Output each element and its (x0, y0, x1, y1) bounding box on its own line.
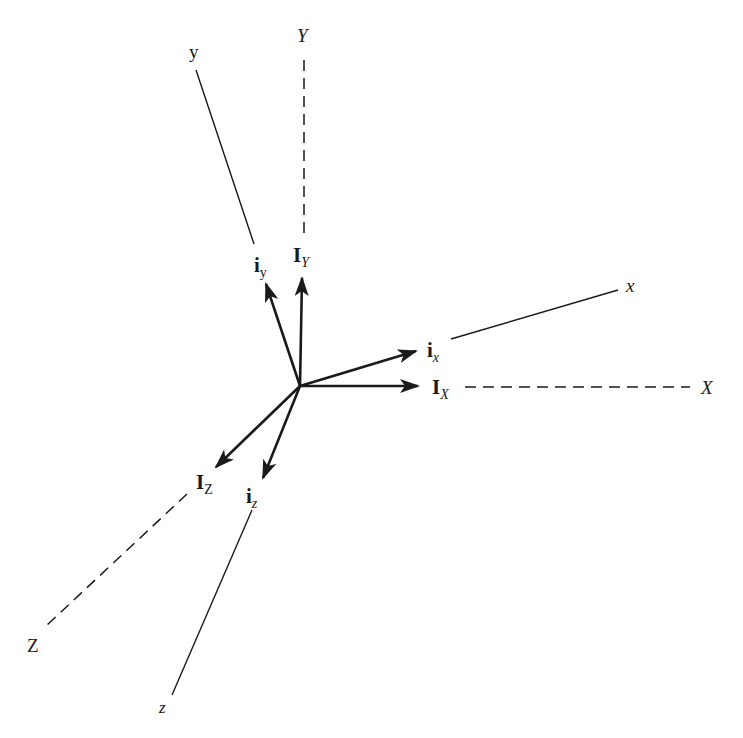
vector-I-Z-arrow (216, 386, 300, 467)
vector-label-I-Y: IY (293, 243, 311, 270)
vector-i-y-arrow (266, 284, 300, 386)
vector-I-Y-arrow (300, 278, 302, 386)
vector-label-i-y-sub: y (260, 265, 267, 280)
vector-label-I-Y-sub: Y (301, 255, 311, 270)
body-axis-x-line (451, 290, 618, 339)
axis-label-y: y (189, 41, 199, 62)
vector-label-i-x-sub: x (432, 350, 440, 365)
vector-label-I-Z: IZ (196, 470, 213, 497)
vector-i-z-arrow (263, 386, 300, 478)
axis-label-x: x (625, 275, 635, 296)
axis-label-Z: Z (27, 635, 39, 656)
vector-i-x-arrow (300, 351, 416, 386)
inertial-axis-Z-line (46, 494, 187, 626)
axis-label-Y: Y (297, 25, 310, 46)
vector-label-I-X-base: I (432, 375, 440, 399)
vector-label-i-y: iy (254, 253, 267, 280)
vector-label-I-Y-base: I (293, 243, 301, 267)
unit-vectors (216, 278, 418, 478)
vector-label-I-X-sub: X (439, 387, 449, 402)
vector-label-I-Z-sub: Z (204, 482, 213, 497)
vector-label-i-x: ix (427, 338, 440, 365)
axis-lines (46, 57, 690, 695)
vector-label-i-z-sub: z (251, 496, 258, 511)
coordinate-frames-diagram: y Y x X Z z IY iy ix IX IZ iz (0, 0, 743, 738)
axis-label-z: z (158, 698, 166, 717)
vector-label-I-Z-base: I (196, 470, 204, 494)
vector-label-I-X: IX (432, 375, 449, 402)
vector-labels: IY iy ix IX IZ iz (196, 243, 449, 511)
vector-label-i-z: iz (246, 484, 258, 511)
axis-labels: y Y x X Z z (27, 25, 714, 717)
body-axis-y-line (196, 70, 254, 244)
axis-label-X: X (700, 377, 714, 398)
body-axis-z-line (172, 510, 252, 695)
